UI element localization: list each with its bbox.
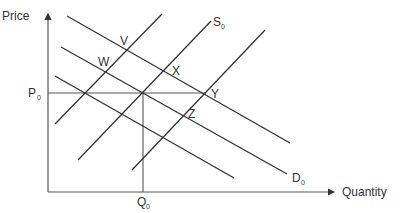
point-y-label: Y — [211, 87, 219, 101]
supply-demand-diagram: Price Quantity P 0 Q 0 S 0 D 0 V W X Y Z — [0, 0, 406, 213]
supply-label-subscript: 0 — [221, 23, 225, 30]
supply-curve-left — [55, 14, 162, 124]
demand-curve-high — [67, 16, 290, 143]
point-z-label: Z — [188, 107, 195, 121]
point-x-label: X — [172, 64, 180, 78]
quantity-level-subscript: 0 — [146, 203, 150, 210]
y-axis-label: Price — [2, 9, 30, 23]
demand-label: D — [292, 171, 301, 185]
quantity-level-label: Q — [137, 195, 146, 209]
x-axis-label: Quantity — [342, 185, 387, 199]
point-v-label: V — [120, 34, 128, 48]
supply-curve-right — [132, 30, 265, 170]
price-level-subscript: 0 — [37, 94, 41, 101]
demand-label-subscript: 0 — [301, 179, 305, 186]
supply-label: S — [213, 15, 221, 29]
price-level-label: P — [28, 86, 36, 100]
point-w-label: W — [98, 55, 110, 69]
supply-curve-s0 — [78, 21, 211, 160]
